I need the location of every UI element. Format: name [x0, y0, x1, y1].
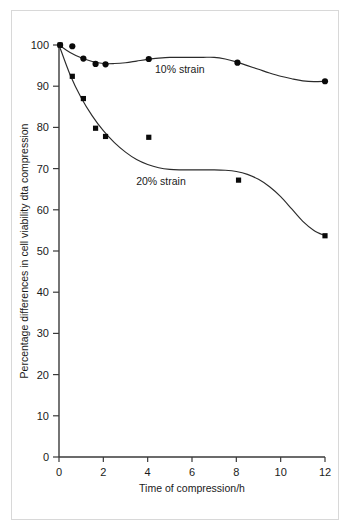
data-point — [70, 74, 75, 79]
data-point — [234, 60, 240, 66]
data-point — [236, 178, 241, 183]
y-tick-label: 90 — [37, 80, 49, 92]
data-point — [146, 135, 151, 140]
y-tick-label: 20 — [37, 369, 49, 381]
axes-group — [59, 45, 325, 457]
x-tick-label: 6 — [189, 466, 195, 478]
y-tick-label: 60 — [37, 204, 49, 216]
data-point — [102, 61, 108, 67]
y-tick-label: 30 — [37, 327, 49, 339]
y-ticks-group: 0102030405060708090100 — [31, 39, 59, 463]
x-tick-label: 12 — [319, 466, 331, 478]
data-point — [58, 42, 63, 47]
data-point — [322, 78, 328, 84]
series-annotation-10-strain: 10% strain — [155, 63, 205, 75]
y-tick-label: 80 — [37, 121, 49, 133]
y-tick-label: 40 — [37, 286, 49, 298]
data-point — [93, 126, 98, 131]
figure-root: 0102030405060708090100 024681012 10% str… — [0, 0, 350, 531]
y-axis-title: Percentage differences in cell viability… — [18, 123, 30, 378]
x-ticks-group: 024681012 — [56, 457, 331, 478]
chart-canvas: 0102030405060708090100 024681012 10% str… — [0, 0, 350, 531]
data-point — [81, 96, 86, 101]
data-point — [92, 61, 98, 67]
data-point — [69, 43, 75, 49]
data-point — [80, 55, 86, 61]
data-point — [146, 56, 152, 62]
data-point — [322, 233, 327, 238]
x-tick-label: 0 — [56, 466, 62, 478]
annotations-group: 10% strain20% strain — [136, 63, 205, 187]
x-tick-label: 8 — [233, 466, 239, 478]
series-annotation-20-strain: 20% strain — [136, 175, 186, 187]
y-tick-label: 70 — [37, 163, 49, 175]
x-tick-label: 2 — [100, 466, 106, 478]
y-tick-label: 50 — [37, 245, 49, 257]
data-point — [103, 134, 108, 139]
x-tick-label: 10 — [275, 466, 287, 478]
y-tick-label: 10 — [37, 410, 49, 422]
y-tick-label: 100 — [31, 39, 49, 51]
x-axis-title: Time of compression/h — [139, 482, 245, 494]
y-tick-label: 0 — [43, 451, 49, 463]
x-tick-label: 4 — [145, 466, 151, 478]
